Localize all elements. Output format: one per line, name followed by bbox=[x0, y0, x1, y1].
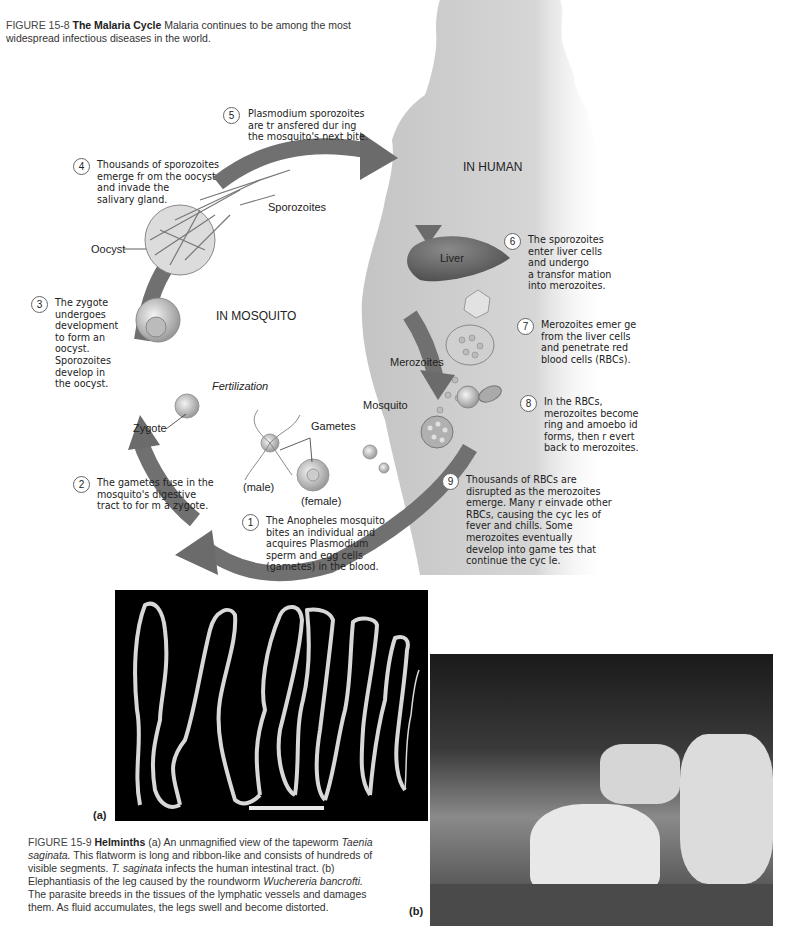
label-zygote: Zygote bbox=[133, 422, 167, 434]
label-mosquito: Mosquito bbox=[363, 399, 408, 411]
step-text: Merozoites emer gefrom the liver cellsan… bbox=[541, 319, 671, 365]
step-text: The Anopheles mosquitobites an individua… bbox=[266, 515, 406, 573]
region-label-mosquito: IN MOSQUITO bbox=[216, 309, 296, 323]
step-number: 7 bbox=[517, 318, 534, 335]
region-label-human: IN HUMAN bbox=[463, 160, 522, 174]
step-text: The zygoteundergoesdevelopmentto form an… bbox=[55, 297, 135, 390]
label-oocyst: Oocyst bbox=[91, 243, 125, 255]
label-male: (male) bbox=[243, 481, 274, 493]
step-text: The sporozoitesenter liver cellsand unde… bbox=[528, 234, 648, 292]
label-merozoites: Merozoites bbox=[390, 356, 444, 368]
step-number: 2 bbox=[73, 476, 90, 493]
step-4: 4 Thousands of sporozoitesemerge fr om t… bbox=[97, 159, 277, 205]
step-number: 8 bbox=[520, 395, 537, 412]
photo-cloth bbox=[600, 744, 680, 804]
step-text: Thousands of RBCs aredisrupted as the me… bbox=[466, 474, 626, 567]
step-5: 5 Plasmodium sporozoitesare tr ansfered … bbox=[248, 108, 438, 143]
scale-bar bbox=[249, 806, 324, 810]
step-3: 3 The zygoteundergoesdevelopmentto form … bbox=[55, 297, 135, 390]
step-text: In the RBCs,merozoites becomering and am… bbox=[544, 396, 674, 454]
photo-cloth bbox=[680, 734, 773, 884]
label-female: (female) bbox=[301, 495, 341, 507]
label-fertilization: Fertilization bbox=[212, 380, 268, 392]
step-8: 8 In the RBCs,merozoites becomering and … bbox=[544, 396, 674, 454]
photo-legs bbox=[430, 884, 773, 926]
step-1: 1 The Anopheles mosquitobites an individ… bbox=[266, 515, 406, 573]
step-number: 1 bbox=[242, 514, 259, 531]
elephantiasis-photo bbox=[430, 654, 773, 926]
step-text: Thousands of sporozoitesemerge fr om the… bbox=[97, 159, 277, 205]
tapeworm-graphic bbox=[115, 590, 428, 821]
panel-label-a: (a) bbox=[93, 809, 106, 821]
panel-label-b: (b) bbox=[409, 905, 423, 917]
label-gametes: Gametes bbox=[311, 420, 356, 432]
figure-title: Helminths bbox=[95, 836, 146, 848]
step-text: The gametes fuse in themosquito's digest… bbox=[97, 477, 227, 512]
step-number: 3 bbox=[31, 296, 48, 313]
tapeworm-photo bbox=[115, 590, 428, 821]
figure-label: FIGURE 15-9 bbox=[28, 836, 92, 848]
step-6: 6 The sporozoitesenter liver cellsand un… bbox=[528, 234, 648, 292]
step-number: 6 bbox=[504, 233, 521, 250]
step-text: Plasmodium sporozoitesare tr ansfered du… bbox=[248, 108, 438, 143]
label-liver: Liver bbox=[440, 252, 464, 264]
step-number: 4 bbox=[73, 158, 90, 175]
figure-15-9-caption: FIGURE 15-9 Helminths (a) An unmagnified… bbox=[28, 836, 378, 914]
step-7: 7 Merozoites emer gefrom the liver cells… bbox=[541, 319, 671, 365]
step-9: 9 Thousands of RBCs aredisrupted as the … bbox=[466, 474, 626, 567]
step-2: 2 The gametes fuse in themosquito's dige… bbox=[97, 477, 227, 512]
photo-cloth bbox=[530, 804, 660, 894]
step-number: 5 bbox=[223, 107, 240, 124]
step-number: 9 bbox=[442, 473, 459, 490]
